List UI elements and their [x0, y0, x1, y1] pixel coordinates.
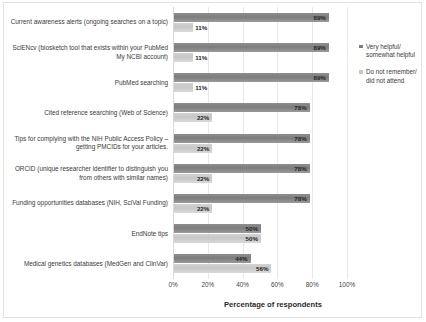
x-axis-tick-label: 20%: [201, 281, 214, 288]
legend-label: Very helpful/ somewhat helpful: [366, 43, 415, 58]
bar-value-label: 22%: [197, 174, 209, 183]
chart-category-row: ORCID (unique researcher identifier to d…: [173, 164, 347, 183]
bar-value-label: 89%: [313, 13, 325, 22]
bar-value-label: 11%: [195, 53, 207, 62]
bar-very-helpful: 44%: [174, 254, 251, 263]
bar-value-label: 50%: [246, 224, 258, 233]
chart-category-row: PubMed searching89%11%: [173, 73, 347, 92]
category-label: Funding opportunities databases (NIH, Sc…: [9, 199, 173, 207]
chart-category-row: Cited reference searching (Web of Scienc…: [173, 103, 347, 122]
x-axis-title: Percentage of respondents: [173, 300, 373, 309]
bar-very-helpful: 89%: [174, 43, 329, 52]
bar-do-not-remember: 11%: [174, 83, 193, 92]
category-label: PubMed searching: [9, 78, 173, 86]
bar-value-label: 11%: [195, 23, 207, 32]
bar-very-helpful: 50%: [174, 224, 261, 233]
bar-do-not-remember: 22%: [174, 174, 212, 183]
bar-do-not-remember: 22%: [174, 144, 212, 153]
bar-value-label: 78%: [294, 164, 306, 173]
bar-do-not-remember: 22%: [174, 204, 212, 213]
bar-value-label: 78%: [294, 103, 306, 112]
legend-label: Do not remember/ did not attend: [366, 68, 417, 83]
bar-very-helpful: 78%: [174, 103, 310, 112]
gridline: [347, 7, 348, 279]
category-label: EndNote tips: [9, 229, 173, 237]
bar-very-helpful: 78%: [174, 134, 310, 143]
category-label: Cited reference searching (Web of Scienc…: [9, 109, 173, 117]
bar-value-label: 22%: [197, 204, 209, 213]
x-axis-tick-label: 80%: [306, 281, 319, 288]
bar-very-helpful: 78%: [174, 194, 310, 203]
bar-do-not-remember: 22%: [174, 113, 212, 122]
chart-category-row: Funding opportunities databases (NIH, Sc…: [173, 194, 347, 213]
bar-do-not-remember: 11%: [174, 53, 193, 62]
legend-item-very-helpful[interactable]: Very helpful/ somewhat helpful: [359, 43, 425, 59]
x-axis-tick-label: 100%: [339, 281, 355, 288]
bar-do-not-remember: 11%: [174, 23, 193, 32]
x-axis-tick-label: 60%: [271, 281, 284, 288]
legend-swatch-icon: [359, 70, 363, 74]
category-label: ORCID (unique researcher identifier to d…: [9, 165, 173, 182]
bar-value-label: 89%: [313, 43, 325, 52]
bar-value-label: 78%: [294, 134, 306, 143]
legend-item-do-not-remember[interactable]: Do not remember/ did not attend: [359, 68, 425, 84]
bar-very-helpful: 89%: [174, 73, 329, 82]
bar-do-not-remember: 50%: [174, 234, 261, 243]
chart-category-row: SciENcv (biosketch tool that exists with…: [173, 43, 347, 62]
bar-value-label: 22%: [197, 113, 209, 122]
category-label: Tips for complying with the NIH Public A…: [9, 135, 173, 152]
bar-value-label: 11%: [195, 83, 207, 92]
bar-do-not-remember: 56%: [174, 264, 271, 273]
bar-value-label: 22%: [197, 144, 209, 153]
chart-legend: Very helpful/ somewhat helpful Do not re…: [359, 43, 425, 94]
bar-value-label: 78%: [294, 194, 306, 203]
bar-value-label: 56%: [256, 264, 268, 273]
legend-swatch-icon: [359, 45, 363, 49]
category-label: Current awareness alerts (ongoing search…: [9, 18, 173, 26]
x-axis: 0%20%40%60%80%100%: [173, 281, 347, 295]
chart-category-row: Medical genetics databases (MedGen and C…: [173, 254, 347, 273]
category-label: SciENcv (biosketch tool that exists with…: [9, 44, 173, 61]
chart-category-row: Tips for complying with the NIH Public A…: [173, 134, 347, 153]
chart-category-row: EndNote tips50%50%: [173, 224, 347, 243]
bar-value-label: 50%: [246, 234, 258, 243]
bar-value-label: 44%: [235, 254, 247, 263]
chart-category-row: Current awareness alerts (ongoing search…: [173, 13, 347, 32]
category-label: Medical genetics databases (MedGen and C…: [9, 260, 173, 268]
plot-area: Current awareness alerts (ongoing search…: [173, 7, 347, 279]
chart-container: Current awareness alerts (ongoing search…: [3, 2, 422, 318]
bar-very-helpful: 89%: [174, 13, 329, 22]
x-axis-tick-label: 40%: [236, 281, 249, 288]
bar-value-label: 89%: [313, 73, 325, 82]
x-axis-tick-label: 0%: [168, 281, 177, 288]
bar-very-helpful: 78%: [174, 164, 310, 173]
